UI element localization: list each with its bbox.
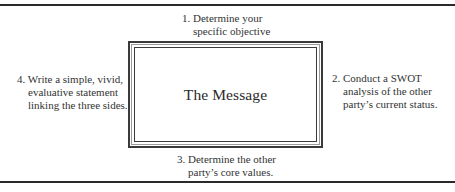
- top-rule: [0, 4, 455, 6]
- step-3-core-values: 3. Determine the other party’s core valu…: [177, 153, 276, 179]
- step-4-line-1: 4. Write a simple, vivid,: [17, 73, 128, 86]
- step-2-line-3: party’s current status.: [332, 98, 437, 111]
- step-2-swot-analysis: 2. Conduct a SWOT analysis of the other …: [332, 72, 437, 111]
- message-frame: The Message: [128, 41, 323, 148]
- step-2-line-1: 2. Conduct a SWOT: [332, 72, 437, 85]
- step-4-line-2: evaluative statement: [17, 86, 128, 99]
- step-4-line-3: linking the three sides.: [17, 99, 128, 112]
- step-4-write-statement: 4. Write a simple, vivid, evaluative sta…: [17, 73, 128, 112]
- step-3-line-1: 3. Determine the other: [177, 153, 276, 166]
- step-3-line-2: party’s core values.: [177, 166, 276, 179]
- step-2-line-2: analysis of the other: [332, 85, 437, 98]
- step-1-determine-objective: 1. Determine your specific objective: [182, 12, 270, 38]
- center-message-label: The Message: [184, 86, 267, 104]
- step-1-line-2: specific objective: [182, 25, 270, 38]
- step-1-line-1: 1. Determine your: [182, 12, 270, 25]
- bottom-rule: [0, 181, 455, 183]
- message-frame-inner: The Message: [134, 47, 317, 142]
